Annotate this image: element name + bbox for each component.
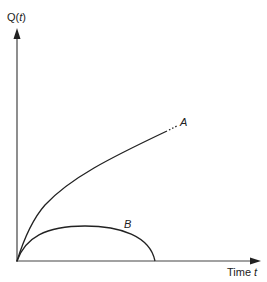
x-axis-arrow-icon — [250, 258, 261, 265]
curve-b-label: B — [124, 218, 131, 230]
curve-a-dotted-extension — [169, 126, 177, 130]
y-axis — [14, 28, 21, 262]
x-axis-label: Time t — [227, 266, 257, 278]
diagram-canvas — [0, 0, 267, 282]
curve-a-label: A — [180, 116, 187, 128]
curve-a — [17, 131, 167, 261]
y-axis-arrow-icon — [14, 28, 21, 39]
curve-b — [17, 226, 155, 261]
x-axis — [16, 258, 261, 265]
y-axis-label: Q(t) — [7, 11, 26, 23]
